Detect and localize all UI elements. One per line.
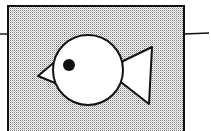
eye-dot bbox=[63, 59, 75, 71]
fish-drawing bbox=[0, 0, 211, 131]
illustration bbox=[0, 0, 211, 131]
right-connector-line bbox=[184, 33, 209, 34]
fish-body-circle bbox=[53, 35, 123, 105]
